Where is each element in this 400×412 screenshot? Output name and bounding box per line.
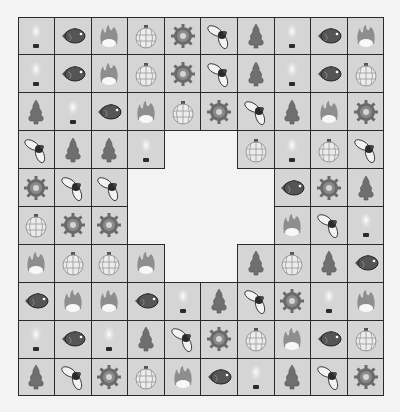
- tile-tree[interactable]: [310, 244, 348, 283]
- tile-lantern[interactable]: [127, 17, 165, 56]
- tile-bulb[interactable]: [18, 17, 56, 56]
- tile-fly[interactable]: [54, 168, 92, 207]
- tile-lantern[interactable]: [237, 320, 275, 359]
- tile-fire[interactable]: [54, 282, 92, 321]
- tile-bulb[interactable]: [274, 17, 312, 56]
- tile-gear[interactable]: [91, 206, 129, 245]
- tile-fly[interactable]: [91, 168, 129, 207]
- tile-bulb[interactable]: [310, 282, 348, 321]
- tile-lantern[interactable]: [237, 130, 275, 169]
- tile-tree[interactable]: [237, 17, 275, 56]
- tile-fly[interactable]: [237, 92, 275, 131]
- tile-fly[interactable]: [237, 282, 275, 321]
- tile-bulb[interactable]: [274, 54, 312, 93]
- tile-fly[interactable]: [347, 130, 385, 169]
- tile-fire[interactable]: [91, 17, 129, 56]
- tile-fire[interactable]: [274, 320, 312, 359]
- pine-tree-icon: [242, 249, 270, 277]
- tile-tree[interactable]: [91, 130, 129, 169]
- tile-lantern[interactable]: [18, 206, 56, 245]
- tile-bulb[interactable]: [18, 320, 56, 359]
- tile-gear[interactable]: [164, 17, 202, 56]
- tile-fish[interactable]: [127, 282, 165, 321]
- tile-gear[interactable]: [347, 92, 385, 131]
- tile-lantern[interactable]: [164, 92, 202, 131]
- fish-icon: [95, 98, 123, 126]
- tile-fire[interactable]: [310, 92, 348, 131]
- tile-fly[interactable]: [54, 358, 92, 397]
- tile-tree[interactable]: [274, 92, 312, 131]
- tile-fish[interactable]: [18, 282, 56, 321]
- tile-bulb[interactable]: [127, 130, 165, 169]
- tile-fish[interactable]: [91, 92, 129, 131]
- tile-lantern[interactable]: [310, 130, 348, 169]
- tile-tree[interactable]: [237, 54, 275, 93]
- tile-tree[interactable]: [18, 358, 56, 397]
- tile-tree[interactable]: [237, 244, 275, 283]
- tile-gear[interactable]: [310, 168, 348, 207]
- fish-icon: [132, 287, 160, 315]
- tile-bulb[interactable]: [274, 130, 312, 169]
- lantern-ornament-icon: [242, 136, 270, 164]
- tile-fly[interactable]: [18, 130, 56, 169]
- tile-fish[interactable]: [274, 168, 312, 207]
- tile-bulb[interactable]: [237, 358, 275, 397]
- tile-gear[interactable]: [18, 168, 56, 207]
- tile-tree[interactable]: [54, 130, 92, 169]
- flame-icon: [352, 287, 380, 315]
- tile-lantern[interactable]: [91, 244, 129, 283]
- tile-gear[interactable]: [54, 206, 92, 245]
- tile-fly[interactable]: [310, 358, 348, 397]
- light-bulb-icon: [315, 287, 343, 315]
- tile-tree[interactable]: [274, 358, 312, 397]
- tile-fire[interactable]: [91, 54, 129, 93]
- tile-fish[interactable]: [310, 17, 348, 56]
- tile-fish[interactable]: [54, 17, 92, 56]
- lantern-ornament-icon: [352, 325, 380, 353]
- tile-fire[interactable]: [127, 92, 165, 131]
- tile-fire[interactable]: [347, 17, 385, 56]
- tile-lantern[interactable]: [347, 54, 385, 93]
- tile-fly[interactable]: [164, 320, 202, 359]
- tile-tree[interactable]: [347, 168, 385, 207]
- tile-lantern[interactable]: [127, 358, 165, 397]
- tile-bulb[interactable]: [164, 282, 202, 321]
- tile-fish[interactable]: [200, 358, 238, 397]
- tile-fly[interactable]: [310, 206, 348, 245]
- tile-lantern[interactable]: [54, 244, 92, 283]
- tile-fly[interactable]: [200, 54, 238, 93]
- tile-gear[interactable]: [200, 92, 238, 131]
- tile-fish[interactable]: [54, 320, 92, 359]
- gear-icon: [205, 325, 233, 353]
- tile-fire[interactable]: [274, 206, 312, 245]
- tile-fire[interactable]: [127, 244, 165, 283]
- tile-bulb[interactable]: [91, 320, 129, 359]
- empty-cell: [164, 206, 202, 245]
- tile-lantern[interactable]: [347, 320, 385, 359]
- tile-fly[interactable]: [200, 17, 238, 56]
- tile-tree[interactable]: [18, 92, 56, 131]
- tile-bulb[interactable]: [347, 206, 385, 245]
- tile-tree[interactable]: [200, 282, 238, 321]
- tile-bulb[interactable]: [18, 54, 56, 93]
- fly-insect-icon: [242, 287, 270, 315]
- tile-gear[interactable]: [164, 54, 202, 93]
- tile-gear[interactable]: [347, 358, 385, 397]
- tile-fish[interactable]: [347, 244, 385, 283]
- tile-fish[interactable]: [54, 54, 92, 93]
- tile-fire[interactable]: [18, 244, 56, 283]
- tile-fish[interactable]: [310, 320, 348, 359]
- tile-fire[interactable]: [91, 282, 129, 321]
- tile-gear[interactable]: [91, 358, 129, 397]
- tile-bulb[interactable]: [54, 92, 92, 131]
- tile-lantern[interactable]: [274, 244, 312, 283]
- tile-tree[interactable]: [127, 320, 165, 359]
- tile-gear[interactable]: [274, 282, 312, 321]
- tile-lantern[interactable]: [127, 54, 165, 93]
- lantern-ornament-icon: [242, 325, 270, 353]
- tile-gear[interactable]: [200, 320, 238, 359]
- tile-fire[interactable]: [347, 282, 385, 321]
- tile-fire[interactable]: [164, 358, 202, 397]
- flame-icon: [169, 363, 197, 391]
- tile-fish[interactable]: [310, 54, 348, 93]
